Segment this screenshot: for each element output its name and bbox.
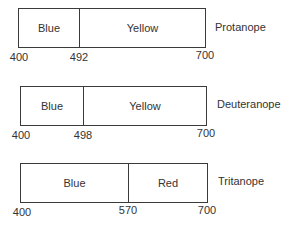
tick-700: 700 xyxy=(198,204,216,216)
segment-label: Yellow xyxy=(127,22,158,34)
tritanope-blue-segment: Blue xyxy=(21,164,129,202)
tritanope-spectrum-bar: Blue Red xyxy=(20,163,208,203)
protanope-spectrum-bar: Blue Yellow xyxy=(18,8,206,48)
protanope-blue-segment: Blue xyxy=(19,9,80,47)
protanope-yellow-segment: Yellow xyxy=(80,9,205,47)
tick-498: 498 xyxy=(74,129,92,141)
segment-label: Blue xyxy=(41,100,63,112)
tick-700: 700 xyxy=(197,127,215,139)
tritanope-red-segment: Red xyxy=(129,164,207,202)
tick-700: 700 xyxy=(196,49,214,61)
deuteranope-yellow-segment: Yellow xyxy=(84,87,206,125)
tick-570: 570 xyxy=(119,204,137,216)
tick-400: 400 xyxy=(12,129,30,141)
tick-492: 492 xyxy=(70,51,88,63)
tick-400: 400 xyxy=(13,206,31,218)
protanope-label: Protanope xyxy=(215,21,266,33)
segment-label: Yellow xyxy=(129,100,160,112)
segment-label: Blue xyxy=(38,22,60,34)
deuteranope-label: Deuteranope xyxy=(217,98,281,110)
tritanope-label: Tritanope xyxy=(218,175,264,187)
segment-label: Red xyxy=(158,177,178,189)
tick-400: 400 xyxy=(10,51,28,63)
deuteranope-spectrum-bar: Blue Yellow xyxy=(20,86,207,126)
segment-label: Blue xyxy=(63,177,85,189)
deuteranope-blue-segment: Blue xyxy=(21,87,84,125)
